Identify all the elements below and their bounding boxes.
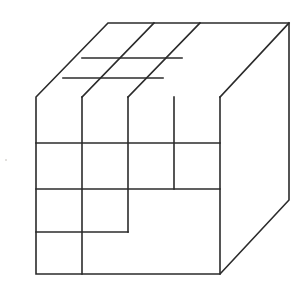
figure-root: Isometric cube divided into a 4 x 4 bloc… [0,0,299,285]
cube-diagram [0,0,299,285]
speckle [5,159,7,161]
